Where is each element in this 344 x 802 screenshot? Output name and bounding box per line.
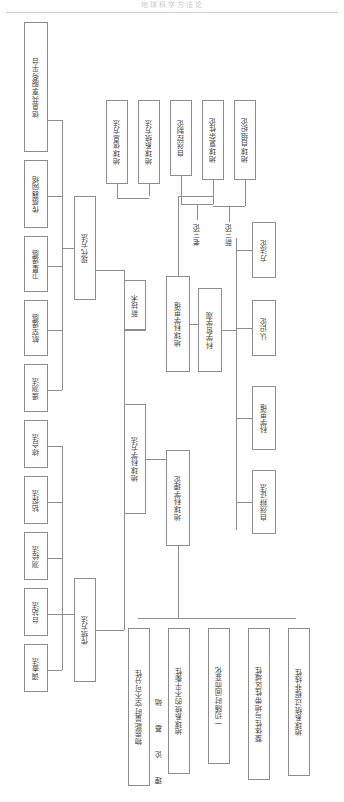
caption-label: 理 论 基 础 (154, 694, 164, 784)
connector-bus-traditional (62, 446, 63, 670)
connector (96, 630, 124, 631)
node-label: 卫星遥感 (32, 249, 40, 279)
caption-label: 老三论 (192, 223, 202, 246)
node-methodology[interactable]: 方法论 (252, 222, 276, 278)
connector (48, 120, 62, 121)
connector (213, 180, 214, 204)
node-label: 新技术 (131, 294, 139, 317)
node-label: 遥测法 (32, 377, 40, 400)
node-remote-measure-method[interactable]: 遥测法 (24, 364, 48, 412)
diagram-canvas: 地球科学方法论 信息共享服务平台 传感器网络 卫星遥感 航空遥感 遥测法 综合法… (0, 0, 344, 802)
node-label: 地球科学思维 (174, 301, 182, 347)
node-label: 物质能量时空不可分性 (135, 669, 143, 745)
node-label: 一切随时间而变化 (215, 666, 223, 727)
connector (236, 418, 252, 419)
connector (236, 250, 252, 251)
caption-old-three-theories: 老三论 (189, 216, 205, 252)
node-philosophy-of-science-view[interactable]: 科学哲学观 (198, 288, 222, 372)
node-satellite-remote-sensing[interactable]: 卫星遥感 (24, 236, 48, 292)
connector (48, 670, 62, 671)
node-geoscience-thinking[interactable]: 地球科学思维 (166, 276, 190, 372)
connector (222, 330, 236, 331)
connector (236, 502, 252, 503)
node-label: 地球复杂性论 (209, 117, 217, 163)
node-natural-dialectics[interactable]: 自然辩证法 (252, 470, 276, 534)
node-earth-complexity-theory[interactable]: 地球复杂性论 (202, 100, 224, 180)
node-comprehensive-method[interactable]: 综合法 (24, 420, 48, 468)
node-label: 地球自组织论 (241, 117, 249, 163)
connector (48, 614, 62, 615)
node-label: 航空遥感 (32, 313, 40, 343)
node-earth-self-organization[interactable]: 地球自组织论 (234, 100, 256, 180)
node-drilling-method[interactable]: 钻探法 (24, 476, 48, 524)
node-sensor-network[interactable]: 传感器网络 (24, 160, 48, 228)
connector (62, 614, 74, 615)
node-label: 整体性与地带性区域性 (255, 666, 263, 742)
node-label: 地球科学方法 (131, 436, 139, 482)
connector (178, 196, 179, 276)
node-label: 方法论 (260, 239, 268, 262)
node-investigation-method[interactable]: 调查法 (24, 644, 48, 692)
node-label: 综合法 (32, 433, 40, 456)
node-label: 传统方法 (81, 615, 89, 645)
node-scientific-thinking[interactable]: 科学思维 (252, 386, 276, 450)
node-label: 自然辩证法 (260, 483, 268, 521)
node-label: 现代方法 (81, 233, 89, 263)
connector (48, 502, 62, 503)
connector-bus-modern (62, 120, 63, 390)
node-new-technology[interactable]: 新技术 (124, 280, 146, 330)
connector (190, 324, 198, 325)
node-earth-system-nonlinearity[interactable]: 地球系统过程非线性 (288, 628, 310, 776)
connector (48, 330, 62, 331)
node-label: 测绘法 (32, 545, 40, 568)
node-earth-info-method[interactable]: 地球信息方法 (106, 100, 128, 184)
caption-new-three-theories: 新三论 (221, 216, 237, 252)
node-station-method[interactable]: 台站法 (24, 588, 48, 636)
node-earth-system-method[interactable]: 地球系统方法 (138, 100, 160, 184)
header-divider (6, 12, 338, 13)
node-label: 科学哲学观 (206, 311, 214, 349)
node-matter-energy-spacetime[interactable]: 物质能量时空不可分性 (128, 628, 150, 786)
node-label: 地球系统方法 (145, 119, 153, 165)
connector (146, 459, 166, 460)
connector-theory-bus (138, 618, 296, 619)
node-label: 钻探法 (32, 489, 40, 512)
connector (245, 180, 246, 206)
connector (48, 266, 62, 267)
connector (236, 328, 252, 329)
node-label: 认识论 (260, 317, 268, 340)
connector (48, 558, 62, 559)
node-change-over-time[interactable]: 一切随时间而变化 (208, 628, 230, 764)
node-modern-methods[interactable]: 现代方法 (74, 196, 96, 300)
node-label: 地球系统过程非线性 (295, 668, 303, 736)
node-label: 地球科学理论 (174, 475, 182, 521)
node-geoscience-theory[interactable]: 地球科学理论 (166, 450, 190, 546)
node-epistemology[interactable]: 认识论 (252, 300, 276, 356)
connector (178, 546, 179, 618)
connector-philosophy-spine (236, 238, 237, 530)
node-label: 地球信息方法 (113, 119, 121, 165)
node-natural-cybernetics[interactable]: 自然控制论 (170, 100, 192, 176)
node-label: 调查法 (32, 657, 40, 680)
node-geoscience-methods[interactable]: 地球科学方法 (124, 404, 146, 514)
node-label: 台站法 (32, 601, 40, 624)
connector (48, 446, 62, 447)
header-band: 地球科学方法论 (0, 0, 344, 18)
node-survey-mapping-method[interactable]: 测绘法 (24, 532, 48, 580)
node-label: 地球系统的不平衡性 (175, 667, 183, 735)
caption-theory-basis: 理 论 基 础 (152, 700, 166, 778)
connector (178, 196, 214, 197)
node-info-sharing-platform[interactable]: 信息共享服务平台 (24, 22, 48, 152)
connector (96, 270, 124, 271)
connector (117, 184, 118, 198)
node-earth-system-imbalance[interactable]: 地球系统的不平衡性 (168, 628, 190, 774)
connector (48, 390, 62, 391)
connector-old-three-bus (117, 198, 149, 199)
node-holism-zonality-regionality[interactable]: 整体性与地带性区域性 (248, 628, 270, 780)
node-label: 自然控制论 (177, 119, 185, 157)
node-traditional-methods[interactable]: 传统方法 (74, 578, 96, 682)
caption-label: 新三论 (224, 223, 234, 246)
node-aerial-remote-sensing[interactable]: 航空遥感 (24, 300, 48, 356)
connector (62, 248, 74, 249)
connector-methods-spine (124, 270, 125, 630)
